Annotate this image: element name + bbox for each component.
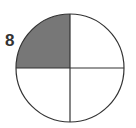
- shaded-quadrant: [16, 14, 70, 68]
- fraction-circle: [0, 0, 136, 128]
